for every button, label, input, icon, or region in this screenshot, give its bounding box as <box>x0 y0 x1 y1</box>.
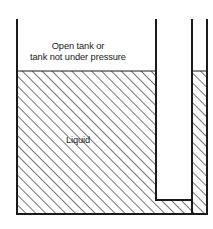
hydrostatic-tank-figure: Open tank or tank not under pressure Liq… <box>0 0 213 229</box>
open-tank-note: Open tank or tank not under pressure <box>0 41 156 63</box>
tank-schematic-svg <box>0 0 213 229</box>
open-tank-note-line2: tank not under pressure <box>0 52 156 63</box>
open-tank-note-line1: Open tank or <box>0 41 156 52</box>
liquid-label: Liquid <box>0 135 156 146</box>
dry-channel-outline <box>156 20 192 200</box>
liquid-hatched-fill <box>0 0 213 229</box>
